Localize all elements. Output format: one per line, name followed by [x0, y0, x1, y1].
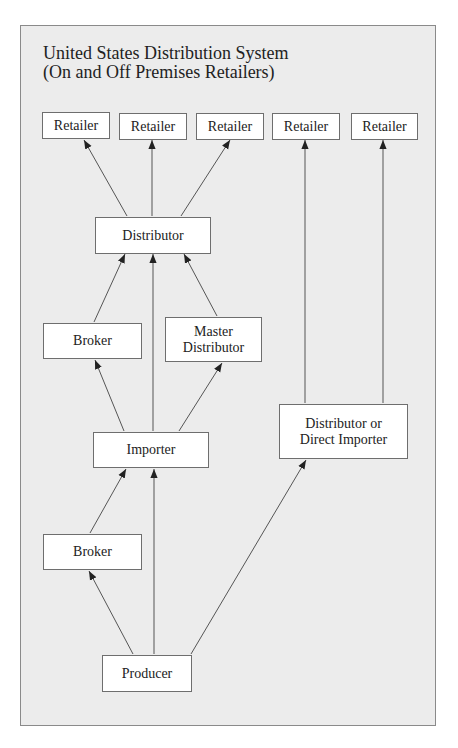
node-label: Retailer — [131, 119, 175, 135]
node-broker-upper: Broker — [43, 323, 142, 359]
edge-distributor-retailer3 — [181, 140, 230, 216]
node-label: Broker — [73, 544, 112, 560]
node-label: Importer — [127, 442, 176, 458]
node-producer: Producer — [102, 655, 192, 692]
node-retailer-4: Retailer — [272, 113, 340, 140]
node-label-line-2: Direct Importer — [300, 432, 387, 448]
node-retailer-5: Retailer — [351, 113, 418, 140]
edge-producer-broker — [89, 571, 133, 654]
edge-master-distributor — [184, 254, 217, 316]
node-label-line-2: Distributor — [183, 340, 244, 356]
node-retailer-1: Retailer — [42, 112, 110, 139]
node-label: Retailer — [208, 119, 252, 135]
edge-broker-importer — [90, 469, 126, 533]
node-label-line-1: Distributor or — [305, 416, 382, 432]
node-broker-lower: Broker — [43, 534, 142, 570]
node-label: Retailer — [284, 119, 328, 135]
node-retailer-3: Retailer — [196, 113, 264, 140]
node-distributor: Distributor — [95, 217, 211, 254]
node-label: Producer — [122, 666, 173, 682]
node-retailer-2: Retailer — [119, 113, 187, 140]
edge-producer-ddi — [191, 460, 306, 654]
node-distributor-or-direct-importer: Distributor or Direct Importer — [279, 404, 408, 459]
node-label: Broker — [73, 333, 112, 349]
node-label-line-1: Master — [194, 324, 233, 340]
edge-importer-master — [179, 363, 222, 431]
node-label: Retailer — [362, 119, 406, 135]
node-label: Retailer — [54, 118, 98, 134]
node-importer: Importer — [93, 432, 209, 468]
edge-broker-distributor — [94, 254, 125, 322]
edge-importer-broker — [95, 360, 124, 431]
node-master-distributor: Master Distributor — [165, 317, 262, 362]
node-label: Distributor — [122, 228, 183, 244]
edge-distributor-retailer1 — [84, 140, 127, 216]
